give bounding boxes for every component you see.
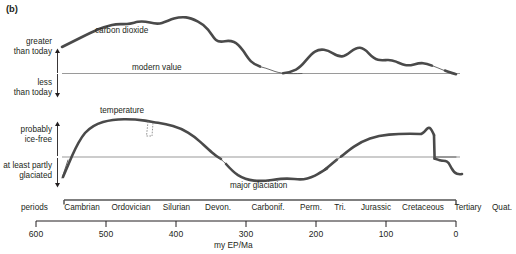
periods-row-label: periods (21, 203, 48, 213)
period-label-cambrian: Cambrian (57, 203, 107, 212)
co2-greater-label-line2: than today (0, 47, 52, 57)
temp-glaciated-label-line2: glaciated (0, 171, 52, 181)
period-label-triassic: Tri. (327, 203, 353, 212)
temperature-curve-mesozoic-plateau (341, 128, 434, 157)
carbon-dioxide-annotation: carbon dioxide (95, 26, 148, 36)
period-label-silurian: Silurian (154, 203, 199, 212)
temperature-annotation: temperature (100, 106, 144, 116)
x-axis-title: my EP/Ma (214, 240, 253, 250)
carbon-dioxide-curve (62, 17, 260, 66)
temperature-curve-tertiary-drop (434, 135, 435, 159)
co2-greater-arrow (55, 49, 60, 74)
period-label-ordovician: Ordovician (104, 203, 158, 212)
co2-less-label-line1: less (0, 78, 52, 88)
major-glaciation-annotation: major glaciation (230, 181, 287, 191)
tick-label-500: 500 (92, 229, 120, 239)
temperature-icefree-arrow (55, 122, 60, 157)
co2-greater-label-line1: greater (0, 37, 52, 47)
period-label-jurassic: Jurassic (352, 203, 400, 212)
tick-label-600: 600 (22, 229, 50, 239)
temp-icefree-label-line1: probably (0, 125, 52, 135)
tick-label-100: 100 (372, 229, 400, 239)
modern-value-annotation: modern value (132, 63, 182, 73)
co2-less-arrow (55, 74, 60, 98)
period-label-devonian: Devon. (196, 203, 240, 212)
tick-label-400: 400 (162, 229, 190, 239)
carbon-dioxide-curve-mesozoic (283, 48, 432, 73)
time-axis-ticks (36, 221, 456, 227)
temperature-curve-main (63, 119, 221, 177)
period-label-carboniferous: Carbonif. (243, 203, 293, 212)
tick-label-300: 300 (232, 229, 260, 239)
tick-label-0: 0 (444, 229, 468, 239)
temperature-curve-glaciation-trough (226, 164, 327, 181)
temperature-curve-cenozoic (435, 159, 462, 175)
period-label-quaternary: Quat. (486, 203, 516, 212)
period-label-permian: Perm. (292, 203, 330, 212)
temp-icefree-label-line2: ice-free (0, 135, 52, 145)
temperature-glaciated-arrow (55, 158, 60, 188)
tick-label-200: 200 (302, 229, 330, 239)
temp-glaciated-label-line1: at least partly (0, 161, 52, 171)
co2-less-label-line2: than today (0, 88, 52, 98)
brief-glaciation-dash-marker (147, 122, 154, 137)
period-label-cretaceous: Cretaceous (395, 203, 451, 212)
period-label-tertiary: Tertiary (446, 203, 490, 212)
